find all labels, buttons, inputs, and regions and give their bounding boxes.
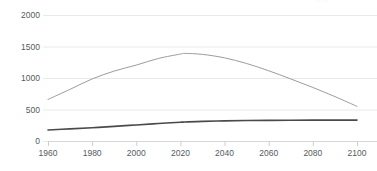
- x-tick-label: 2000: [127, 148, 146, 158]
- x-tick-label: 2060: [259, 148, 278, 158]
- y-tick-label: 1500: [21, 42, 40, 52]
- x-tick-label: 1960: [39, 148, 58, 158]
- y-tick-label: 500: [26, 105, 40, 115]
- line-chart: •• •• 0500100015002000 19601980200020202…: [0, 0, 377, 171]
- chart-background: [0, 0, 377, 171]
- x-tick-label: 2020: [171, 148, 190, 158]
- y-tick-label: 2000: [21, 10, 40, 20]
- legend-clipped-label: •• ••: [316, 0, 328, 4]
- y-tick-label: 1000: [21, 73, 40, 83]
- x-tick-label: 2040: [215, 148, 234, 158]
- x-tick-label: 2100: [348, 148, 367, 158]
- legend: •• ••: [316, 0, 328, 4]
- chart-canvas: •• •• 0500100015002000 19601980200020202…: [0, 0, 377, 171]
- x-tick-label: 1980: [83, 148, 102, 158]
- y-tick-label: 0: [35, 136, 40, 146]
- x-tick-label: 2080: [303, 148, 322, 158]
